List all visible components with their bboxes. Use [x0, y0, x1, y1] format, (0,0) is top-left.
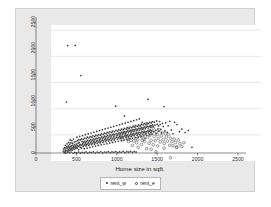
filled-dot-marker-icon — [106, 182, 108, 184]
y-tick-label: 0 — [31, 146, 36, 160]
x-tick-label: 1000 — [111, 157, 123, 162]
x-axis-title: Home size in sqft. — [35, 166, 245, 172]
axes-layer — [16, 9, 254, 191]
legend-entry-rent-e[interactable]: rent_e — [135, 181, 155, 186]
y-tick-label: 1500 — [31, 67, 36, 81]
y-tick-label: 500 — [31, 119, 36, 133]
x-tick-label: 1500 — [151, 157, 163, 162]
y-tick-label: 2000 — [31, 41, 36, 55]
scatter-plot-figure: 05001000150020002500 0500100015002000250… — [0, 0, 271, 207]
y-tick-label: 1000 — [31, 93, 36, 107]
legend-label-rent-e: rent_e — [140, 181, 155, 186]
y-tick-label: 2500 — [31, 15, 36, 29]
x-tick-label: 2000 — [192, 157, 204, 162]
x-tick-label: 500 — [72, 157, 81, 162]
chart-legend: rent_w rent_e — [100, 177, 161, 190]
legend-label-rent-w: rent_w — [111, 181, 127, 186]
x-tick-label: 2500 — [232, 157, 244, 162]
hollow-circle-marker-icon — [135, 182, 138, 185]
legend-entry-rent-w[interactable]: rent_w — [106, 181, 126, 186]
